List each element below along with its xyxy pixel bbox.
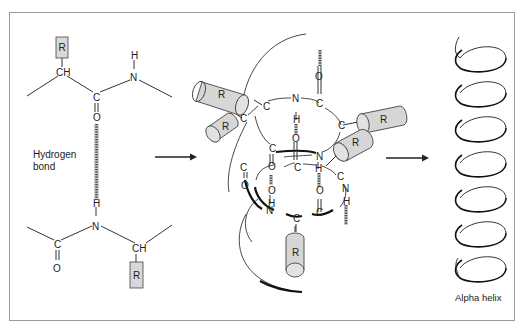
alpha-carbon-label: CH [132, 243, 146, 254]
alpha-helix-label: Alpha helix [455, 292, 502, 303]
alpha-helix-coil [455, 37, 506, 282]
atom-o: O [268, 185, 276, 196]
side-chain-label: R [133, 270, 140, 281]
atom-c: C [293, 213, 300, 224]
atom-c: C [337, 171, 344, 182]
atom-c: C [240, 162, 247, 173]
atom-c: C [338, 120, 345, 131]
top-peptide: R CH C O N H [27, 37, 172, 123]
atom-o: O [268, 161, 276, 172]
alpha-carbon-label: CH [56, 67, 70, 78]
amide-nitrogen-label: N [92, 221, 99, 232]
side-chain-label: R [222, 121, 229, 132]
side-chain-cylinder: R [203, 113, 238, 145]
hydrogen-bond [94, 124, 99, 200]
atom-o: O [316, 185, 324, 196]
atom-c: C [294, 162, 301, 173]
side-chain-label: R [352, 137, 359, 148]
side-chain-cylinder: R [330, 129, 373, 164]
atom-n: N [292, 93, 299, 104]
atom-n: N [266, 205, 273, 216]
side-chain-label: R [292, 247, 299, 258]
alpha-helix-diagram: R CH C O N H Hydrogen bond H N C O CH R [0, 0, 532, 329]
carbonyl-carbon-label: C [93, 92, 100, 103]
bottom-peptide: H N C O CH R [27, 198, 172, 288]
atom-h: H [315, 163, 322, 174]
side-chain-label: R [59, 42, 66, 53]
side-chain-cylinder: R [190, 80, 251, 117]
atom-c: C [316, 98, 323, 109]
atom-o: O [241, 180, 249, 191]
carbonyl-oxygen-label: O [53, 263, 61, 274]
hydrogen-bond-label-line1: Hydrogen [33, 149, 76, 160]
hydrogen-bond-label-line2: bond [33, 161, 55, 172]
carbonyl-carbon-label: C [54, 239, 61, 250]
amide-hydrogen-label: H [93, 198, 100, 209]
atom-n: N [342, 183, 349, 194]
arrow-right-icon [155, 154, 197, 161]
side-chain-cylinder: R [286, 226, 304, 277]
side-chain-label: R [218, 89, 225, 100]
atom-c: C [269, 143, 276, 154]
atom-c: C [263, 101, 270, 112]
atom-c: C [316, 207, 323, 218]
atom-o: O [292, 133, 300, 144]
atom-o: O [315, 71, 323, 82]
carbonyl-oxygen-label: O [93, 112, 101, 123]
arrow-right-icon [386, 155, 429, 162]
amide-hydrogen-label: H [131, 50, 138, 61]
atom-n: N [316, 151, 323, 162]
side-chain-label: R [380, 114, 387, 125]
helix-ball-stick-model: O N C C C C H O C N C O C H O O O C N H … [190, 34, 407, 292]
atom-h: H [293, 114, 300, 125]
amide-nitrogen-label: N [130, 72, 137, 83]
atom-h: H [343, 196, 350, 207]
